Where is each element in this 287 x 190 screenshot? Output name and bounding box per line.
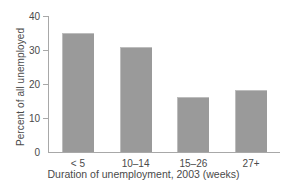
bar-3 — [235, 90, 267, 152]
x-axis-title: Duration of unemployment, 2003 (weeks) — [0, 168, 287, 180]
bar-2 — [177, 97, 209, 152]
y-tick-mark — [43, 84, 48, 85]
bar-1 — [120, 47, 152, 152]
y-tick-label: 40 — [29, 11, 40, 22]
y-tick-label: 20 — [29, 79, 40, 90]
x-axis-line — [48, 152, 280, 153]
bar-chart-figure: Percent of all unemployed 40 30 20 10 0 — [0, 0, 287, 190]
y-tick-mark — [43, 16, 48, 17]
y-tick-label: 0 — [34, 147, 40, 158]
plot-area: 40 30 20 10 0 < 5 10–14 15–26 27+ — [48, 16, 280, 152]
y-tick-mark — [43, 118, 48, 119]
bars-layer — [49, 16, 280, 152]
y-axis-title: Percent of all unemployed — [14, 12, 28, 162]
y-tick-label: 10 — [29, 113, 40, 124]
y-tick-label: 30 — [29, 45, 40, 56]
bar-0 — [62, 33, 94, 152]
y-tick-mark — [43, 50, 48, 51]
